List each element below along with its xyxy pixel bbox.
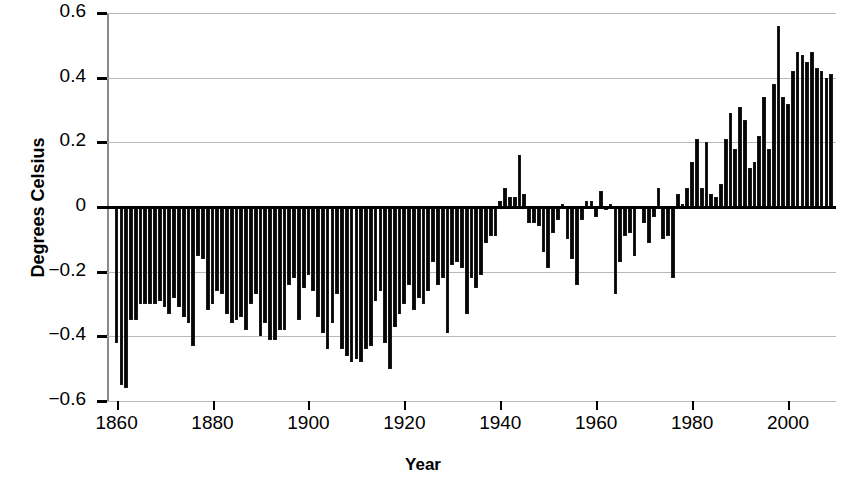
y-tick-label: 0.6 <box>60 0 86 22</box>
y-gridline <box>107 78 836 79</box>
bar <box>690 162 694 207</box>
bar <box>163 207 167 307</box>
bar <box>172 207 176 298</box>
y-gridline <box>107 401 836 402</box>
bar <box>829 74 833 207</box>
bar <box>666 207 670 236</box>
bar <box>465 207 469 314</box>
bar <box>187 207 191 323</box>
bar <box>115 207 119 343</box>
bar <box>249 207 253 304</box>
bar <box>805 62 809 208</box>
bar <box>743 120 747 207</box>
bar <box>455 207 459 262</box>
bar <box>719 184 723 207</box>
bar <box>211 207 215 304</box>
bar <box>633 207 637 256</box>
bar <box>177 207 181 307</box>
y-tick <box>97 335 107 338</box>
bar <box>820 71 824 207</box>
bar <box>235 207 239 320</box>
x-tick <box>213 401 215 410</box>
bar <box>196 207 200 256</box>
bar <box>570 207 574 259</box>
bar <box>729 113 733 207</box>
x-tick <box>404 401 406 410</box>
bar <box>772 84 776 207</box>
zero-baseline <box>104 206 836 209</box>
bar <box>796 52 800 207</box>
bar <box>335 207 339 294</box>
bar <box>307 207 311 275</box>
bar <box>494 207 498 236</box>
bar <box>738 107 742 207</box>
y-tick-label: −0.6 <box>48 388 86 410</box>
bar <box>801 55 805 207</box>
bar <box>489 207 493 236</box>
bar <box>331 207 335 323</box>
x-tick <box>788 401 790 410</box>
bar <box>450 207 454 265</box>
bar <box>311 207 315 291</box>
bar <box>518 155 522 207</box>
bar <box>369 207 373 346</box>
bar <box>757 136 761 207</box>
bar <box>287 207 291 285</box>
bar <box>407 207 411 285</box>
bar <box>460 207 464 268</box>
bar <box>422 207 426 304</box>
bar <box>733 149 737 207</box>
y-tick <box>97 400 107 403</box>
bar <box>182 207 186 317</box>
bar <box>786 104 790 207</box>
bar <box>321 207 325 333</box>
bar <box>479 207 483 275</box>
bar <box>345 207 349 356</box>
bar <box>748 168 752 207</box>
y-tick <box>97 12 107 15</box>
bar <box>388 207 392 369</box>
bar <box>781 97 785 207</box>
bar <box>412 207 416 310</box>
bar <box>364 207 368 349</box>
x-tick-label: 1880 <box>191 412 233 434</box>
bar <box>484 207 488 243</box>
y-tick-label: −0.2 <box>48 259 86 281</box>
bar <box>239 207 243 317</box>
bar <box>268 207 272 340</box>
bar <box>201 207 205 259</box>
bar <box>297 207 301 320</box>
bar <box>129 207 133 320</box>
bar <box>542 207 546 252</box>
bar <box>470 207 474 278</box>
bar <box>532 207 536 223</box>
bar <box>153 207 157 304</box>
y-tick-label: 0 <box>75 194 86 216</box>
bar <box>825 78 829 207</box>
bar <box>700 188 704 207</box>
bar <box>671 207 675 278</box>
bar <box>143 207 147 304</box>
bar <box>134 207 138 320</box>
bar <box>618 207 622 262</box>
bar <box>767 149 771 207</box>
bar <box>623 207 627 236</box>
bar <box>791 71 795 207</box>
bar <box>446 207 450 333</box>
bar <box>383 207 387 343</box>
bar <box>148 207 152 304</box>
bar <box>124 207 128 388</box>
bar <box>810 52 814 207</box>
plot-area <box>107 13 836 401</box>
bar <box>220 207 224 294</box>
y-tick <box>97 141 107 144</box>
x-tick-label: 1960 <box>575 412 617 434</box>
x-tick-label: 2000 <box>767 412 809 434</box>
bar <box>642 207 646 223</box>
bar <box>278 207 282 330</box>
bar <box>417 207 421 298</box>
bar <box>402 207 406 304</box>
bar <box>283 207 287 330</box>
x-tick <box>692 401 694 410</box>
bar <box>753 162 757 207</box>
